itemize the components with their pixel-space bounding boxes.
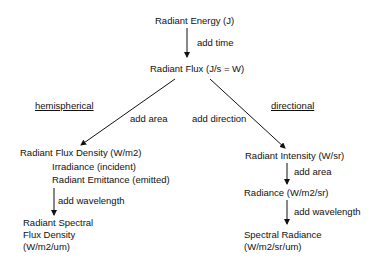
edge-label-add-wavelength-left: add wavelength (58, 195, 125, 207)
node-radiance: Radiance (W/m2/sr) (244, 187, 328, 199)
node-spectral-flux-density-line3: (W/m2/um) (23, 241, 70, 253)
node-spectral-radiance-line2: (W/m2/sr/um) (244, 241, 302, 253)
edge-label-add-time: add time (197, 37, 233, 49)
node-spectral-radiance-line1: Spectral Radiance (244, 229, 322, 241)
arrow-add-area-left (81, 79, 175, 145)
node-radiant-energy: Radiant Energy (J) (155, 15, 234, 27)
node-radiant-intensity: Radiant Intensity (W/sr) (245, 150, 344, 162)
node-spectral-flux-density-line2: Flux Density (23, 229, 75, 241)
edge-label-add-area-left: add area (130, 113, 168, 125)
branch-label-directional: directional (271, 100, 314, 112)
node-spectral-flux-density-line1: Radiant Spectral (23, 217, 93, 229)
branch-label-hemispherical: hemispherical (35, 100, 94, 112)
edge-label-add-area-right: add area (294, 166, 332, 178)
node-radiant-flux-density: Radiant Flux Density (W/m2) (20, 147, 141, 159)
node-irradiance: Irradiance (incident) (52, 161, 136, 173)
edge-label-add-wavelength-right: add wavelength (294, 206, 361, 218)
node-radiant-emittance: Radiant Emittance (emitted) (52, 174, 170, 186)
edge-label-add-direction: add direction (192, 113, 246, 125)
node-radiant-flux: Radiant Flux (J/s = W) (150, 63, 244, 75)
